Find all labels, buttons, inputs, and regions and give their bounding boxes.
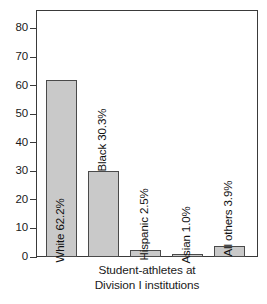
bar-label-black: Black 30.3% xyxy=(97,109,109,172)
y-axis-label-10: 10 xyxy=(16,222,28,234)
y-axis-label-30: 30 xyxy=(16,165,28,177)
bars-layer: White 62.2% Black 30.3% Hispanic 2.5% As… xyxy=(36,10,258,257)
x-axis-caption-line2: Division I institutions xyxy=(36,278,258,293)
bar-label-all-others: All others 3.9% xyxy=(223,181,235,257)
bar-label-white: White 62.2% xyxy=(55,198,67,262)
y-axis-label-20: 20 xyxy=(16,194,28,206)
y-axis-label-50: 50 xyxy=(16,108,28,120)
y-axis-label-40: 40 xyxy=(16,137,28,149)
bar-label-asian: Asian 1.0% xyxy=(181,206,193,263)
bar-label-hispanic: Hispanic 2.5% xyxy=(139,188,151,260)
y-axis-label-0: 0 xyxy=(22,251,28,263)
bar-black xyxy=(88,171,119,257)
y-axis-label-80: 80 xyxy=(16,22,28,34)
bar-chart: 0 10 20 30 40 50 60 70 80 White 62.2% Bl… xyxy=(0,0,267,304)
y-axis-label-70: 70 xyxy=(16,51,28,63)
y-axis-label-60: 60 xyxy=(16,80,28,92)
x-axis-caption: Student-athletes at Division I instituti… xyxy=(36,263,258,292)
x-axis-caption-line1: Student-athletes at xyxy=(36,263,258,278)
